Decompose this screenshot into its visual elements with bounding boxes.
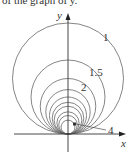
- y-axis-label: y: [56, 9, 62, 21]
- x-axis-label: x: [120, 137, 126, 149]
- y-axis-arrow-icon: [66, 13, 71, 20]
- curve-label-2: 2: [81, 81, 87, 93]
- circle-family-diagram: x y 1 1.5 2 4: [0, 0, 136, 157]
- curve-label-1-5: 1.5: [89, 66, 103, 78]
- leader-marker-4: [73, 123, 76, 126]
- x-axis-arrow-icon: [119, 132, 126, 137]
- curve-label-4: 4: [108, 124, 114, 136]
- curve-label-1: 1: [103, 31, 109, 43]
